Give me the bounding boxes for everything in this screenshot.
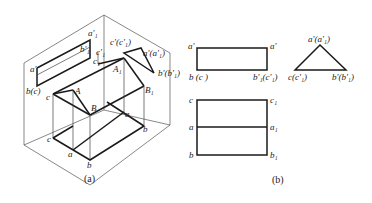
frame-floor-back-left: [24, 110, 104, 145]
label-a-right: a: [125, 109, 130, 119]
prism-c-to-B: [53, 94, 90, 115]
label-c-prime-c1-prime: c'(c'₁): [110, 37, 131, 47]
caption-a: (a): [84, 173, 95, 185]
label-b-prime-b1-prime: b'(b'₁): [158, 68, 180, 78]
label-c1: c₁: [93, 56, 100, 66]
top-a-label: a: [189, 122, 194, 132]
frame-floor-left: [24, 145, 90, 185]
label-a-prime-a1-prime: a'(a'₁): [143, 48, 165, 58]
label-B: B: [91, 103, 97, 113]
front-bottom-left-label: b (c ): [189, 72, 208, 82]
top-b-label: b: [189, 150, 194, 160]
front-bottom-right-label: b'₁(c'₁): [253, 72, 278, 82]
label-a-prime: a': [30, 64, 38, 74]
h-proj-a-line: [73, 112, 124, 150]
prism-A1-edge: [124, 58, 144, 86]
label-b-c: b(c): [26, 86, 41, 96]
caption-b: (b): [272, 174, 284, 186]
label-c-lower: c: [47, 134, 51, 144]
top-b1-label: b₁: [270, 150, 278, 160]
label-a-lower: a: [68, 149, 73, 159]
label-B1: B₁: [145, 85, 154, 95]
top-a1-label: a₁: [270, 122, 278, 132]
side-apex-label: a'(a'₁): [308, 34, 330, 44]
top-c-label: c: [189, 95, 193, 105]
side-left-label: c(c'₁): [288, 72, 307, 82]
label-a1-prime: a'₁: [88, 28, 98, 38]
top-c1-label: c₁: [270, 95, 277, 105]
label-A1: A₁: [112, 64, 122, 74]
front-top-left-label: a': [188, 41, 196, 51]
side-view-triangle: [295, 45, 346, 70]
frame-floor-back-right: [104, 110, 170, 125]
label-b-right: b: [143, 124, 148, 134]
isometric-view: a'₁ b'₁ c'₁ c₁ c'(c'₁) a'(a'₁) b'(b'₁) a…: [24, 15, 180, 185]
label-b1-prime: b'₁: [80, 44, 90, 54]
label-A: A: [74, 86, 81, 96]
prism-B-to-B1: [90, 86, 144, 115]
orthographic-views: a' a' b (c ) b'₁(c'₁) a'(a'₁) c(c'₁) b'(…: [188, 34, 354, 186]
projection-diagram: a'₁ b'₁ c'₁ c₁ c'(c'₁) a'(a'₁) b'(b'₁) a…: [0, 0, 372, 203]
side-right-label: b'(b'₁): [332, 72, 354, 82]
front-top-right-label: a': [270, 41, 278, 51]
label-b-lower: b: [87, 160, 92, 170]
front-view-rect: [197, 48, 267, 70]
label-c-upper: c: [46, 92, 50, 102]
